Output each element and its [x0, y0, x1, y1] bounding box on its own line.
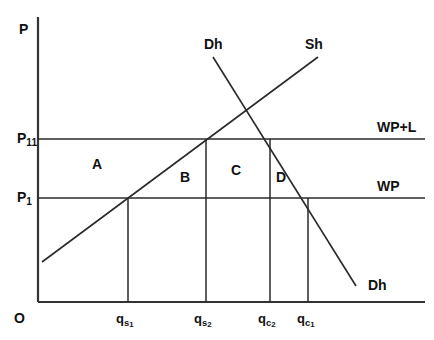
x-tick-qs1-sub2: 1: [129, 320, 133, 329]
x-tick-label-qc2: qc2: [258, 312, 276, 329]
price-label-p1: P1: [17, 190, 32, 207]
x-tick-qc2-sub2: 2: [271, 320, 275, 329]
price-label-p1-sub: 1: [26, 196, 32, 207]
x-tick-qs2-base: q: [194, 311, 202, 326]
demand-curve-bottom-label: Dh: [368, 278, 387, 292]
x-tick-label-qs2: qs2: [194, 312, 212, 329]
x-tick-qc1-base: q: [297, 311, 305, 326]
demand-curve-top-label: Dh: [204, 37, 223, 51]
wp-plus-l-label: WP+L: [377, 120, 416, 134]
price-label-p11-base: P: [17, 130, 26, 146]
region-label-c: C: [231, 163, 241, 177]
wp-label: WP: [377, 179, 400, 193]
origin-label: O: [14, 311, 25, 325]
x-tick-label-qc1: qc1: [297, 312, 315, 329]
x-tick-qs2-sub2: 2: [207, 320, 211, 329]
region-label-a: A: [92, 157, 102, 171]
x-tick-label-qs1: qs1: [116, 312, 134, 329]
region-label-b: B: [180, 170, 190, 184]
x-tick-qs1-base: q: [116, 311, 124, 326]
y-axis-label: P: [19, 22, 28, 36]
price-label-p1-base: P: [17, 189, 26, 205]
x-tick-qc1-sub2: 1: [310, 320, 314, 329]
supply-curve-label: Sh: [305, 37, 323, 51]
supply-demand-diagram: P O P11 P1 WP+L WP Dh Sh Dh A B C D qs1 …: [0, 0, 434, 340]
x-tick-qc2-base: q: [258, 311, 266, 326]
region-label-d: D: [276, 170, 286, 184]
price-label-p11-sub: 11: [26, 137, 37, 148]
price-label-p11: P11: [17, 131, 37, 148]
